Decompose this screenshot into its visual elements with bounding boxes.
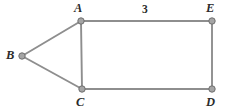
graph-vertex-c: [79, 86, 85, 92]
vertex-label-e: E: [206, 2, 214, 15]
vertex-label-a: A: [74, 2, 82, 15]
graph-vertex-d: [209, 86, 215, 92]
vertex-label-b: B: [6, 49, 14, 62]
graph-vertex-b: [19, 53, 25, 59]
edges-group: [22, 21, 212, 89]
vertex-label-c: C: [76, 96, 84, 109]
graph-vertex-e: [209, 18, 215, 24]
graph-figure: ABCDE3: [0, 0, 226, 111]
vertex-label-d: D: [206, 96, 215, 109]
graph-edge-b-c: [22, 56, 82, 89]
nodes-group: [19, 18, 215, 92]
graph-edge-b-a: [22, 21, 81, 56]
graph-edge-a-c: [81, 21, 82, 89]
graph-vertex-a: [78, 18, 84, 24]
graph-canvas: [0, 0, 226, 111]
edge-weight-label-a-e: 3: [142, 4, 148, 16]
